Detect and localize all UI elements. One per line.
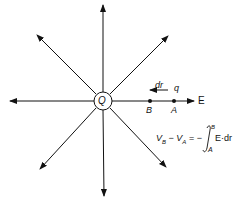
field-line-lower-left [40, 108, 96, 169]
field-label: E [198, 96, 205, 106]
charge-label: Q [98, 96, 106, 106]
point-a-label: A [171, 106, 177, 115]
field-line-upper-left [37, 35, 96, 94]
point-a [172, 99, 176, 103]
integrand: E·dr [215, 134, 232, 143]
field-diagram [0, 0, 243, 203]
integral-upper-limit: B [211, 124, 215, 130]
point-b-label: B [146, 106, 152, 115]
integral-lower-limit: A [208, 146, 213, 153]
field-line-down [103, 110, 104, 196]
point-b [148, 99, 152, 103]
displacement-label: dr [155, 81, 163, 90]
potential-equation: VB − VA = − [156, 133, 202, 145]
test-charge-label: q [174, 84, 179, 93]
